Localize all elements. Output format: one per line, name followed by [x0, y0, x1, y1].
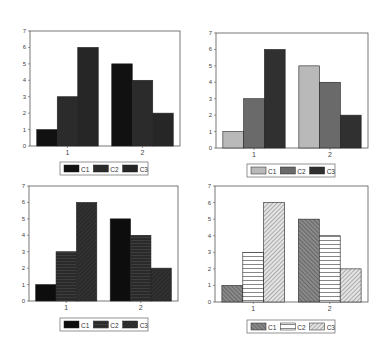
y-tick-label: 1 — [209, 129, 213, 135]
bar-c3-cat-1 — [264, 49, 285, 148]
bar-c1-cat-2 — [299, 66, 320, 148]
bar-c3-cat-1 — [264, 203, 285, 302]
bar-c3-cat-2 — [153, 113, 174, 146]
y-tick-label: 7 — [23, 28, 27, 34]
y-tick-label: 7 — [209, 30, 213, 36]
legend-swatch-c1 — [64, 321, 79, 328]
legend-label-c2: C2 — [110, 166, 119, 173]
y-tick-label: 0 — [22, 298, 26, 304]
bar-c2-cat-1 — [244, 99, 265, 148]
bar-c2-cat-2 — [131, 235, 151, 301]
y-tick-label: 1 — [23, 127, 27, 133]
y-tick-label: 2 — [23, 110, 27, 116]
y-tick-label: 7 — [208, 183, 212, 189]
y-tick-label: 2 — [208, 266, 212, 272]
legend-label-c1: C1 — [81, 166, 90, 173]
bar-c1-cat-1 — [36, 285, 56, 301]
bar-c2-cat-2 — [132, 80, 153, 146]
x-tick-label: 2 — [139, 304, 143, 311]
chart-panel-4: 0123456712C1C2C3 — [208, 183, 368, 333]
y-tick-label: 4 — [23, 77, 27, 83]
legend-label-c2: C2 — [297, 324, 306, 331]
bar-c3-cat-2 — [340, 269, 361, 302]
y-tick-label: 2 — [22, 265, 26, 271]
x-tick-label: 2 — [328, 151, 332, 158]
legend-swatch-c2 — [280, 167, 295, 174]
y-tick-label: 4 — [22, 232, 26, 238]
legend-swatch-c3 — [310, 323, 325, 330]
y-tick-label: 3 — [23, 94, 27, 100]
y-tick-label: 5 — [208, 216, 212, 222]
y-tick-label: 5 — [23, 61, 27, 67]
chart-panel-2: 0123456712C1C2C3 — [209, 30, 368, 177]
y-tick-label: 0 — [23, 143, 27, 149]
legend-label-c2: C2 — [297, 168, 306, 175]
y-tick-label: 5 — [209, 63, 213, 69]
y-tick-label: 4 — [208, 233, 212, 239]
legend-swatch-c3 — [310, 167, 325, 174]
bar-c1-cat-2 — [298, 219, 319, 302]
y-tick-label: 7 — [22, 183, 26, 189]
legend-swatch-c3 — [123, 165, 138, 172]
legend-label-c3: C3 — [327, 324, 336, 331]
bar-c1-cat-1 — [37, 130, 58, 146]
bar-c2-cat-1 — [56, 252, 76, 301]
legend: C1C2C3 — [60, 162, 148, 175]
legend-swatch-c3 — [123, 321, 138, 328]
y-tick-label: 1 — [22, 282, 26, 288]
legend: C1C2C3 — [247, 320, 335, 333]
x-tick-label: 2 — [141, 149, 145, 156]
legend-label-c1: C1 — [81, 322, 90, 329]
legend-label-c1: C1 — [268, 168, 277, 175]
y-tick-label: 2 — [209, 112, 213, 118]
x-tick-label: 2 — [328, 305, 332, 312]
chart-panel-3: 0123456712C1C2C3 — [22, 183, 178, 331]
legend: C1C2C3 — [60, 318, 148, 331]
bar-c1-cat-1 — [222, 285, 243, 302]
legend-label-c3: C3 — [327, 168, 336, 175]
bar-c2-cat-1 — [243, 252, 264, 302]
bar-c3-cat-1 — [76, 202, 96, 301]
x-tick-label: 1 — [252, 151, 256, 158]
bar-c1-cat-2 — [112, 64, 133, 146]
x-tick-label: 1 — [251, 305, 255, 312]
legend-label-c2: C2 — [110, 322, 119, 329]
x-tick-label: 1 — [64, 304, 68, 311]
bar-c2-cat-1 — [57, 97, 78, 146]
legend-label-c3: C3 — [140, 166, 149, 173]
y-tick-label: 4 — [209, 79, 213, 85]
legend-swatch-c2 — [93, 321, 108, 328]
legend-label-c1: C1 — [268, 324, 277, 331]
y-tick-label: 6 — [23, 44, 27, 50]
legend-swatch-c1 — [251, 323, 266, 330]
y-tick-label: 6 — [208, 200, 212, 206]
legend: C1C2C3 — [247, 164, 335, 177]
y-tick-label: 3 — [208, 249, 212, 255]
y-tick-label: 5 — [22, 216, 26, 222]
y-tick-label: 0 — [209, 145, 213, 151]
legend-swatch-c1 — [251, 167, 266, 174]
chart-grid: 0123456712C1C2C30123456712C1C2C301234567… — [0, 0, 390, 353]
x-tick-label: 1 — [66, 149, 70, 156]
bar-c3-cat-1 — [78, 47, 99, 146]
y-tick-label: 6 — [209, 46, 213, 52]
bar-c3-cat-2 — [340, 115, 361, 148]
y-tick-label: 3 — [209, 96, 213, 102]
y-tick-label: 0 — [208, 299, 212, 305]
legend-swatch-c1 — [64, 165, 79, 172]
legend-swatch-c2 — [93, 165, 108, 172]
bar-c2-cat-2 — [319, 236, 340, 302]
y-tick-label: 1 — [208, 282, 212, 288]
legend-label-c3: C3 — [140, 322, 149, 329]
bar-c1-cat-1 — [223, 132, 244, 148]
y-tick-label: 3 — [22, 249, 26, 255]
y-tick-label: 6 — [22, 199, 26, 205]
bar-c1-cat-2 — [110, 219, 130, 301]
legend-swatch-c2 — [280, 323, 295, 330]
bar-c3-cat-2 — [151, 268, 171, 301]
bar-c2-cat-2 — [320, 82, 341, 148]
chart-panel-1: 0123456712C1C2C3 — [23, 28, 180, 175]
